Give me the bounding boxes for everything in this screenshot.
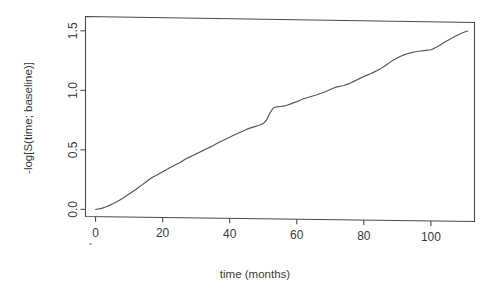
y-axis-title: -log[S(time; baseline)]: [22, 62, 34, 174]
x-axis-ticks: [96, 217, 431, 226]
x-axis-title: time (months): [220, 268, 290, 280]
x-axis-tick-label: 100: [421, 230, 441, 244]
x-axis-tick-label: 40: [223, 227, 237, 241]
x-axis-tick-label: 60: [290, 228, 304, 242]
x-axis-tick-label: 80: [357, 229, 371, 243]
x-axis-tick-label: 20: [156, 226, 170, 240]
y-axis-ticks: [81, 31, 86, 210]
y-axis-tick-labels: 0.00.51.01.5: [66, 22, 80, 218]
y-axis-tick-label: 1.0: [66, 82, 80, 99]
y-axis-tick-label: 0.5: [66, 141, 80, 158]
cumulative-hazard-curve: [96, 31, 468, 210]
cumulative-hazard-plot: 020406080100 0.00.51.01.5 time (months) …: [0, 0, 495, 297]
plot-frame: [86, 17, 475, 222]
y-axis-tick-label: 0.0: [66, 201, 80, 218]
chart-figure: 020406080100 0.00.51.01.5 time (months) …: [0, 0, 495, 297]
y-axis-tick-label: 1.5: [66, 22, 80, 39]
scan-speck: [89, 243, 92, 245]
x-axis-tick-label: 0: [92, 226, 99, 240]
x-axis-tick-labels: 020406080100: [92, 226, 441, 244]
